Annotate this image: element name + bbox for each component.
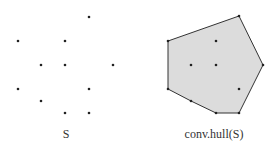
label-s: S [63,127,70,142]
point [167,40,170,43]
point [64,64,67,67]
point [88,88,91,91]
point [17,40,20,43]
point [190,100,193,103]
label-convex-hull: conv.hull(S) [185,127,244,142]
point [215,40,218,43]
point [167,88,170,91]
point [88,112,91,115]
point [238,112,241,115]
point [112,64,115,67]
point-set-s [17,16,115,115]
point [238,15,241,18]
point [190,64,193,67]
point [215,112,218,115]
point [262,64,265,67]
point [238,88,241,91]
point [215,64,218,67]
point [88,16,91,19]
point [40,100,43,103]
point [40,64,43,67]
point [64,40,67,43]
point [64,112,67,115]
point [17,88,20,91]
